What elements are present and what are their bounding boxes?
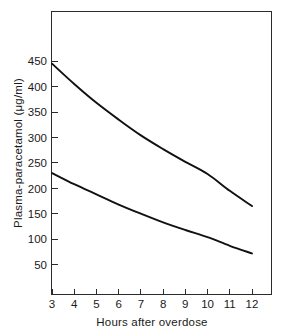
y-tick-label: 400 bbox=[28, 81, 47, 93]
x-tick-label: 10 bbox=[201, 298, 214, 310]
y-tick-label: 350 bbox=[28, 106, 47, 118]
chart-figure: 50 100 150 200 250 300 350 400 450 3 4 bbox=[0, 0, 286, 333]
y-tick-label: 250 bbox=[28, 157, 47, 169]
y-tick-label: 150 bbox=[28, 208, 47, 220]
y-tick-label: 450 bbox=[28, 55, 47, 67]
y-tick-label: 300 bbox=[28, 132, 47, 144]
data-curves bbox=[52, 64, 252, 254]
y-tick-marks bbox=[52, 61, 58, 265]
y-tick-label: 200 bbox=[28, 183, 47, 195]
y-tick-label: 100 bbox=[28, 233, 47, 245]
x-tick-label: 9 bbox=[182, 298, 188, 310]
y-tick-labels: 50 100 150 200 250 300 350 400 450 bbox=[28, 55, 47, 270]
x-tick-labels: 3 4 5 6 7 8 9 10 11 12 bbox=[49, 298, 259, 310]
y-tick-label: 50 bbox=[34, 259, 47, 271]
x-tick-label: 3 bbox=[49, 298, 55, 310]
y-axis-title: Plasma-paracetamol (μg/ml) bbox=[12, 78, 24, 228]
plot-area: 50 100 150 200 250 300 350 400 450 3 4 bbox=[0, 0, 286, 333]
x-tick-label: 12 bbox=[246, 298, 259, 310]
x-tick-label: 8 bbox=[160, 298, 166, 310]
x-tick-label: 7 bbox=[138, 298, 144, 310]
x-tick-label: 5 bbox=[93, 298, 99, 310]
plot-frame bbox=[52, 12, 272, 295]
curve-upper-line bbox=[52, 64, 252, 206]
x-tick-label: 11 bbox=[224, 298, 236, 310]
x-tick-label: 6 bbox=[115, 298, 121, 310]
x-tick-label: 4 bbox=[71, 298, 78, 310]
x-axis-title: Hours after overdose bbox=[96, 316, 207, 328]
x-tick-marks bbox=[52, 289, 252, 295]
